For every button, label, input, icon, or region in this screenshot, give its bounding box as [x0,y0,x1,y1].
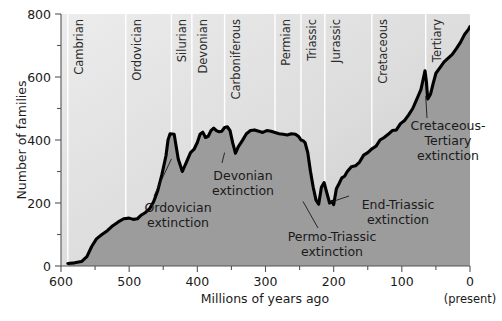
period-label-triassic: Triassic [305,19,319,62]
x-tick-label: 500 [117,274,141,289]
x-tick-label: 100 [390,274,414,289]
period-label-ordovician: Ordovician [130,19,144,81]
period-label-cambrian: Cambrian [72,19,86,75]
period-label-permian: Permian [279,19,293,66]
period-label-cretaceous: Cretaceous [376,19,390,84]
x-tick-label: 300 [254,274,278,289]
annotation-line: Permo-Triassic [288,229,377,244]
x-tick-label: 0 [466,274,474,289]
x-tick-label: 400 [185,274,209,289]
y-tick-label: 400 [27,133,51,148]
annotation-ordovician: Ordovicianextinction [144,200,211,230]
period-label-devonian: Devonian [196,19,210,74]
annotation-line: End-Triassic [362,197,435,212]
period-label-tertiary: Tertiary [430,19,444,63]
y-tick-label: 200 [27,196,51,211]
y-tick-label: 600 [27,70,51,85]
annotation-line: Ordovician [144,200,211,215]
annotation-line: extinction [212,183,274,198]
x-axis-present-note: (present) [444,292,497,306]
annotation-line: extinction [301,244,363,259]
x-tick-label: 600 [49,274,73,289]
x-axis-ticks: 6005004003002001000 [49,266,474,289]
annotation-devonian: Devonianextinction [212,168,274,198]
annotation-line: extinction [417,148,479,163]
period-label-carboniferous: Carboniferous [229,19,243,100]
biodiversity-area-chart: CambrianOrdovicianSilurianDevonianCarbon… [0,0,502,321]
period-label-jurassic: Jurassic [329,19,343,64]
x-tick-label: 200 [322,274,346,289]
annotation-line: Tertiary [424,133,473,148]
y-axis-ticks: 0200400600800 [27,7,61,274]
chart-container: CambrianOrdovicianSilurianDevonianCarbon… [0,0,502,321]
annotation-line: extinction [147,215,209,230]
y-tick-label: 0 [43,259,51,274]
y-tick-label: 800 [27,7,51,22]
period-label-silurian: Silurian [175,19,189,62]
annotation-line: Devonian [213,168,272,183]
annotation-end-triassic: End-Triassicextinction [362,197,435,227]
y-axis-title: Number of families [14,80,29,199]
x-axis-title: Millions of years ago [201,291,329,306]
annotation-line: extinction [367,212,429,227]
annotation-line: Cretaceous- [411,118,486,133]
